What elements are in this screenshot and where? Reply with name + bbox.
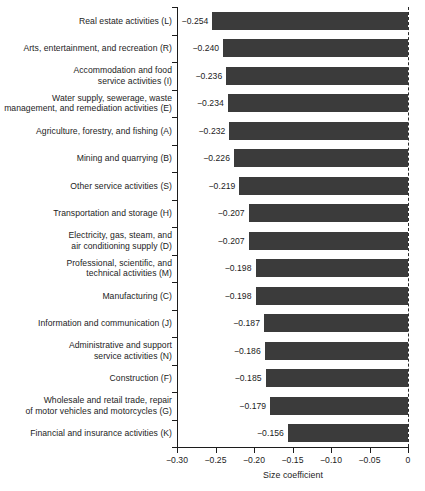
- category-label: Administrative and supportservice activi…: [0, 340, 172, 361]
- x-axis-tick-label: 0: [388, 455, 425, 466]
- bar-value-label: −0.186: [193, 342, 261, 360]
- x-axis-tick: [370, 448, 371, 453]
- bar-track: −0.207: [177, 200, 425, 228]
- bar[interactable]: [239, 177, 408, 195]
- chart-bar-row: Arts, entertainment, and recreation (R)−…: [0, 35, 425, 63]
- x-axis-tick-label: −0.30: [157, 455, 197, 466]
- bar[interactable]: [249, 204, 408, 222]
- bar[interactable]: [226, 67, 408, 85]
- bar-track: −0.198: [177, 255, 425, 283]
- y-axis-tick: [172, 172, 177, 173]
- bar[interactable]: [228, 94, 408, 112]
- zero-reference-line: [408, 7, 409, 447]
- chart-bar-row: Manufacturing (C)−0.198: [0, 282, 425, 310]
- chart-bar-row: Electricity, gas, steam, andair conditio…: [0, 227, 425, 255]
- bar-track: −0.186: [177, 337, 425, 365]
- bar-value-label: −0.236: [154, 67, 222, 85]
- chart-bar-row: Mining and quarrying (B)−0.226: [0, 145, 425, 173]
- bar-chart-figure: Real estate activities (L)−0.254Arts, en…: [0, 0, 425, 491]
- bar[interactable]: [270, 397, 408, 415]
- y-axis-tick: [172, 117, 177, 118]
- bar-track: −0.240: [177, 35, 425, 63]
- x-axis-tick: [254, 448, 255, 453]
- bar-track: −0.187: [177, 310, 425, 338]
- category-label: Arts, entertainment, and recreation (R): [0, 43, 172, 53]
- chart-bar-row: Financial and insurance activities (K)−0…: [0, 420, 425, 448]
- bar-value-label: −0.185: [194, 369, 262, 387]
- y-axis-tick: [172, 337, 177, 338]
- x-axis-tick: [408, 448, 409, 453]
- bar-track: −0.254: [177, 7, 425, 35]
- bar-value-label: −0.226: [162, 149, 230, 167]
- y-axis-tick: [172, 365, 177, 366]
- category-label: Agriculture, forestry, and fishing (A): [0, 126, 172, 136]
- category-label: Accommodation and foodservice activities…: [0, 65, 172, 86]
- bar[interactable]: [234, 149, 408, 167]
- bar-value-label: −0.232: [157, 122, 225, 140]
- bar-value-label: −0.187: [192, 314, 260, 332]
- bar-value-label: −0.198: [184, 259, 252, 277]
- x-axis-tick-label: −0.25: [196, 455, 236, 466]
- x-axis-tick: [293, 448, 294, 453]
- bar[interactable]: [265, 342, 408, 360]
- bar-value-label: −0.156: [216, 424, 284, 442]
- y-axis-tick: [172, 227, 177, 228]
- category-label: Other service activities (S): [0, 181, 172, 191]
- category-label: Transportation and storage (H): [0, 208, 172, 218]
- chart-bar-row: Transportation and storage (H)−0.207: [0, 200, 425, 228]
- y-axis-spine: [177, 7, 178, 447]
- chart-bar-row: Construction (F)−0.185: [0, 365, 425, 393]
- bar[interactable]: [223, 39, 408, 57]
- bar[interactable]: [229, 122, 408, 140]
- bar-track: −0.179: [177, 392, 425, 420]
- chart-bar-row: Information and communication (J)−0.187: [0, 310, 425, 338]
- bar-track: −0.156: [177, 420, 425, 448]
- category-label: Manufacturing (C): [0, 291, 172, 301]
- x-axis-tick-label: −0.10: [311, 455, 351, 466]
- bar[interactable]: [256, 259, 408, 277]
- bar[interactable]: [212, 12, 408, 30]
- x-axis-title: Size coefficient: [177, 470, 409, 480]
- bar[interactable]: [264, 314, 408, 332]
- chart-bar-row: Water supply, sewerage, wastemanagement,…: [0, 90, 425, 118]
- x-axis-tick-label: −0.15: [273, 455, 313, 466]
- bar-track: −0.185: [177, 365, 425, 393]
- chart-bar-row: Professional, scientific, andtechnical a…: [0, 255, 425, 283]
- bar-value-label: −0.207: [177, 232, 245, 250]
- y-axis-tick: [172, 90, 177, 91]
- category-label: Electricity, gas, steam, andair conditio…: [0, 230, 172, 251]
- bar[interactable]: [256, 287, 408, 305]
- bar[interactable]: [266, 369, 408, 387]
- x-axis-tick: [177, 448, 178, 453]
- y-axis-tick: [172, 282, 177, 283]
- bar-track: −0.198: [177, 282, 425, 310]
- bar-value-label: −0.254: [140, 12, 208, 30]
- bar-value-label: −0.207: [177, 204, 245, 222]
- x-axis-tick-label: −0.20: [234, 455, 274, 466]
- chart-bar-row: Accommodation and foodservice activities…: [0, 62, 425, 90]
- x-axis-tick-label: −0.05: [350, 455, 390, 466]
- y-axis-tick: [172, 310, 177, 311]
- y-axis-tick: [172, 420, 177, 421]
- chart-bar-row: Administrative and supportservice activi…: [0, 337, 425, 365]
- bar-track: −0.234: [177, 90, 425, 118]
- chart-bar-row: Other service activities (S)−0.219: [0, 172, 425, 200]
- bar[interactable]: [249, 232, 408, 250]
- bar[interactable]: [288, 424, 408, 442]
- bar-track: −0.219: [177, 172, 425, 200]
- category-label: Wholesale and retail trade, repairof mot…: [0, 395, 172, 416]
- category-label: Construction (F): [0, 373, 172, 383]
- bar-value-label: −0.198: [184, 287, 252, 305]
- category-label: Water supply, sewerage, wastemanagement,…: [0, 93, 172, 114]
- y-axis-tick: [172, 392, 177, 393]
- chart-bar-row: Real estate activities (L)−0.254: [0, 7, 425, 35]
- bar-track: −0.236: [177, 62, 425, 90]
- bar-value-label: −0.179: [198, 397, 266, 415]
- bar-value-label: −0.240: [151, 39, 219, 57]
- x-axis-tick: [331, 448, 332, 453]
- chart-bar-row: Wholesale and retail trade, repairof mot…: [0, 392, 425, 420]
- category-label: Mining and quarrying (B): [0, 153, 172, 163]
- y-axis-tick: [172, 35, 177, 36]
- chart-plot-rows: Real estate activities (L)−0.254Arts, en…: [0, 7, 425, 447]
- category-label: Professional, scientific, andtechnical a…: [0, 258, 172, 279]
